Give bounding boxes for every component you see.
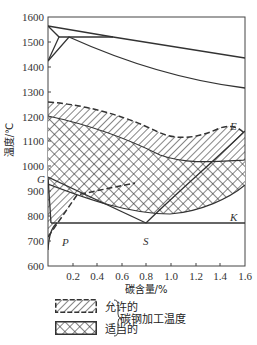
svg-text:1.6: 1.6 (238, 270, 252, 282)
svg-text:1500: 1500 (22, 36, 45, 48)
svg-text:1400: 1400 (22, 61, 45, 73)
svg-text:1300: 1300 (22, 86, 45, 98)
svg-text:900: 900 (28, 185, 45, 197)
svg-text:0.8: 0.8 (139, 270, 153, 282)
cross-hatch-swatch-icon (55, 321, 97, 335)
point-label-e: E (229, 120, 237, 132)
liquidus-line (48, 26, 245, 58)
delta-ferrite-boundary (48, 26, 59, 61)
svg-text:1000: 1000 (22, 160, 45, 172)
svg-text:700: 700 (28, 235, 45, 247)
x-axis-ticks: 0.2 0.4 0.6 0.8 1.0 1.2 1.4 1.6 (66, 270, 252, 282)
svg-text:1.0: 1.0 (164, 270, 178, 282)
solidus-line (48, 37, 245, 88)
svg-text:1.2: 1.2 (189, 270, 203, 282)
y-axis-label: 温度/℃ (3, 123, 15, 158)
svg-text:0.6: 0.6 (115, 270, 129, 282)
svg-text:1100: 1100 (22, 135, 44, 147)
point-label-s: S (143, 235, 149, 247)
phase-diagram-chart: 1600 1500 1400 1300 1200 1100 1000 900 8… (0, 0, 257, 295)
y-axis-ticks: 1600 1500 1400 1300 1200 1100 1000 900 8… (22, 11, 45, 272)
svg-text:800: 800 (28, 210, 45, 222)
point-label-p: P (61, 236, 69, 248)
svg-text:1600: 1600 (22, 11, 45, 23)
x-axis-label: 碳含量/% (125, 283, 168, 295)
svg-text:0.4: 0.4 (90, 270, 104, 282)
svg-text:0.2: 0.2 (66, 270, 80, 282)
point-label-g: G (37, 173, 45, 185)
legend-group-label: 碳钢加工温度 (120, 310, 186, 326)
svg-text:600: 600 (28, 260, 45, 272)
point-label-k: K (229, 211, 238, 223)
svg-text:1200: 1200 (22, 111, 45, 123)
diagonal-hatch-swatch-icon (55, 299, 97, 313)
svg-text:1.4: 1.4 (213, 270, 227, 282)
